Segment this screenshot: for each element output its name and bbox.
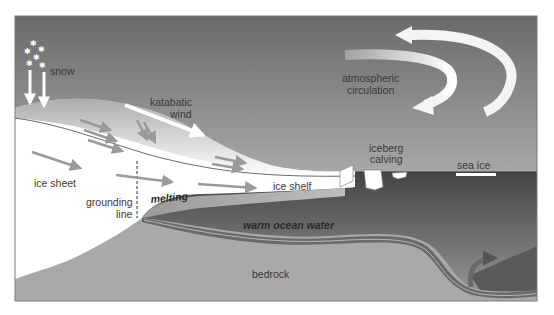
svg-text:✱: ✱: [39, 61, 46, 70]
svg-text:✱: ✱: [24, 47, 31, 56]
label-circulation: circulation: [347, 84, 394, 96]
label-calving: calving: [370, 153, 403, 165]
label-snow: snow: [50, 65, 75, 77]
label-wind: wind: [169, 108, 192, 120]
iceberg: [364, 170, 383, 190]
ice-sheet-diagram: ✱✱✱ ✱✱✱ snow katabatic wind atmospheric …: [0, 0, 554, 315]
svg-text:✱: ✱: [30, 39, 37, 48]
sea-ice: [456, 173, 496, 176]
label-warm-ocean-water: warm ocean water: [243, 219, 335, 231]
label-katabatic: katabatic: [150, 96, 192, 108]
label-ice-shelf: ice shelf: [273, 180, 312, 192]
label-ice-sheet: ice sheet: [34, 177, 76, 189]
svg-text:✱: ✱: [26, 59, 33, 68]
label-bedrock: bedrock: [252, 268, 290, 280]
label-grounding: grounding: [86, 196, 133, 208]
label-line: line: [116, 208, 133, 220]
label-sea-ice: sea ice: [457, 159, 490, 171]
label-atmospheric: atmospheric: [342, 72, 399, 84]
